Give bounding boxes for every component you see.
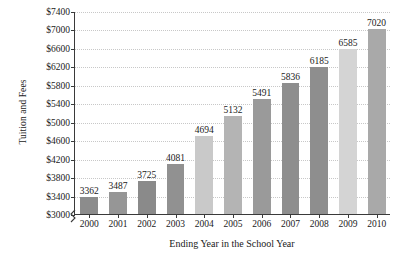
axis-break-icon — [70, 209, 81, 223]
y-tick-label: $5000 — [46, 118, 70, 128]
x-tick-label: 2008 — [310, 219, 329, 229]
y-tick-label: $7400 — [46, 7, 70, 17]
bar-value-label: 6585 — [338, 38, 357, 48]
x-tick-mark — [262, 214, 263, 218]
y-tick-label: $7000 — [46, 25, 70, 35]
y-tick-label: $6200 — [46, 62, 70, 72]
x-tick-label: 2009 — [338, 219, 357, 229]
bar-value-label: 4694 — [195, 125, 214, 135]
y-tick-mark — [71, 160, 75, 161]
x-tick-mark — [147, 214, 148, 218]
x-tick-mark — [290, 214, 291, 218]
x-tick-label: 2003 — [166, 219, 185, 229]
bar: 7020 — [368, 29, 386, 214]
bar-value-label: 4081 — [166, 153, 185, 163]
bar-value-label: 3725 — [137, 170, 156, 180]
x-tick-label: 2007 — [281, 219, 300, 229]
y-tick-label: $6600 — [46, 44, 70, 54]
y-tick-label: $5400 — [46, 99, 70, 109]
x-tick-label: 2006 — [252, 219, 271, 229]
x-tick-mark — [89, 214, 90, 218]
x-tick-mark — [118, 214, 119, 218]
y-tick-mark — [71, 141, 75, 142]
y-tick-label: $4600 — [46, 136, 70, 146]
plot-area: $3000$3400$3800$4200$4600$5000$5400$5800… — [74, 12, 390, 215]
x-tick-mark — [176, 214, 177, 218]
y-tick-mark — [71, 67, 75, 68]
bar: 4081 — [167, 164, 185, 214]
bar-value-label: 6185 — [310, 56, 329, 66]
bar-value-label: 7020 — [367, 18, 386, 28]
y-tick-label: $3400 — [46, 192, 70, 202]
x-tick-label: 2001 — [109, 219, 128, 229]
y-tick-mark — [71, 86, 75, 87]
y-tick-label: $4200 — [46, 155, 70, 165]
x-tick-mark — [204, 214, 205, 218]
y-tick-label: $5800 — [46, 81, 70, 91]
bar: 5491 — [253, 99, 271, 214]
x-tick-mark — [348, 214, 349, 218]
y-tick-mark — [71, 30, 75, 31]
y-tick-mark — [71, 123, 75, 124]
bar-value-label: 3362 — [80, 186, 99, 196]
x-tick-mark — [319, 214, 320, 218]
x-tick-mark — [377, 214, 378, 218]
x-tick-label: 2010 — [367, 219, 386, 229]
bar-value-label: 5491 — [252, 88, 271, 98]
y-tick-mark — [71, 49, 75, 50]
gridline — [75, 12, 390, 13]
x-tick-label: 2002 — [137, 219, 156, 229]
bar: 4694 — [195, 136, 213, 214]
x-tick-label: 2000 — [80, 219, 99, 229]
bar-value-label: 5132 — [223, 105, 242, 115]
gridline — [75, 30, 390, 31]
bar: 5836 — [282, 83, 300, 214]
y-tick-label: $3000 — [46, 210, 70, 220]
y-tick-label: $3800 — [46, 173, 70, 183]
x-tick-label: 2004 — [195, 219, 214, 229]
y-tick-mark — [71, 197, 75, 198]
bar-value-label: 5836 — [281, 72, 300, 82]
bar: 3725 — [138, 181, 156, 214]
bar-value-label: 3487 — [109, 181, 128, 191]
bar: 3362 — [80, 197, 98, 214]
tuition-and-fees-bar-chart: Tuition and Fees $3000$3400$3800$4200$46… — [0, 0, 401, 265]
y-tick-mark — [71, 104, 75, 105]
bar: 6585 — [339, 49, 357, 214]
bar: 6185 — [310, 67, 328, 214]
bar: 3487 — [109, 192, 127, 214]
bar: 5132 — [224, 116, 242, 214]
y-tick-mark — [71, 178, 75, 179]
x-tick-label: 2005 — [224, 219, 243, 229]
y-tick-mark — [71, 12, 75, 13]
x-axis-title: Ending Year in the School Year — [74, 238, 390, 249]
y-axis-title: Tuition and Fees — [18, 42, 28, 182]
x-tick-mark — [233, 214, 234, 218]
